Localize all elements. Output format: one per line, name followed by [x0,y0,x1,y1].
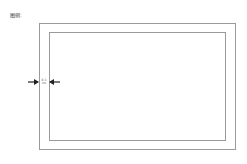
dimension-unit: cm [40,82,48,85]
dimension-label: 0.3 cm [40,79,48,85]
left-arrow-icon [28,79,39,85]
right-arrow-icon [49,79,60,85]
dimension-arrows [0,0,247,164]
